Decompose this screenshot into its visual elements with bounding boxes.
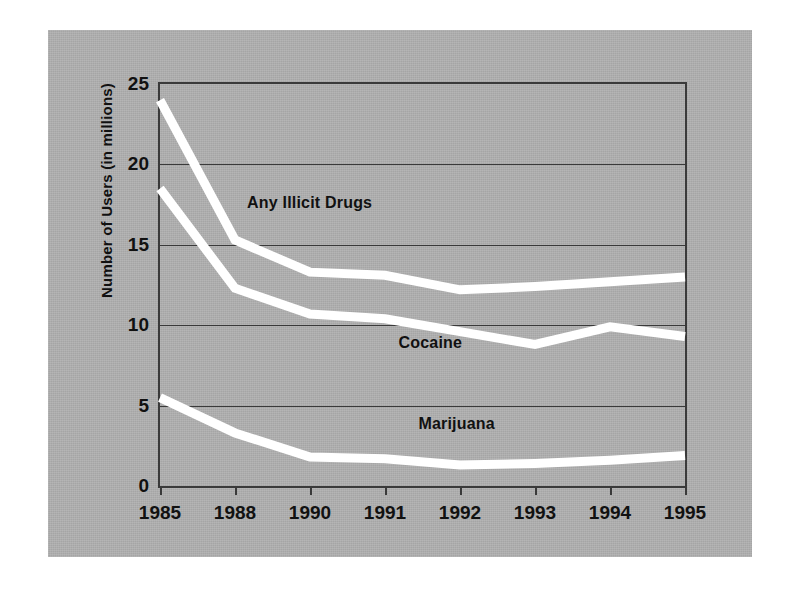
x-tick-1992 — [460, 486, 462, 495]
x-tick-label-1993: 1993 — [514, 502, 556, 524]
chart-panel: Number of Users (in millions) 0510152025… — [48, 30, 752, 557]
x-tick-label-1985: 1985 — [139, 502, 181, 524]
series-label-cocaine: Cocaine — [399, 334, 463, 352]
y-tick-label-15: 15 — [128, 234, 149, 256]
x-tick-1991 — [385, 486, 387, 495]
x-tick-label-1995: 1995 — [664, 502, 706, 524]
x-tick-1990 — [310, 486, 312, 495]
y-axis-title: Number of Users (in millions) — [98, 61, 115, 321]
x-tick-1994 — [610, 486, 612, 495]
x-tick-1995 — [685, 486, 687, 495]
x-tick-label-1988: 1988 — [214, 502, 256, 524]
y-tick-label-25: 25 — [128, 73, 149, 95]
y-tick-label-5: 5 — [138, 395, 149, 417]
x-tick-label-1992: 1992 — [439, 502, 481, 524]
y-tick-label-0: 0 — [138, 475, 149, 497]
series-line-cocaine — [160, 189, 685, 345]
series-label-any-illicit-drugs: Any Illicit Drugs — [247, 194, 372, 212]
x-tick-label-1991: 1991 — [364, 502, 406, 524]
x-tick-label-1994: 1994 — [589, 502, 631, 524]
y-tick-label-20: 20 — [128, 153, 149, 175]
x-tick-1988 — [235, 486, 237, 495]
y-tick-label-10: 10 — [128, 314, 149, 336]
x-tick-label-1990: 1990 — [289, 502, 331, 524]
x-tick-1993 — [535, 486, 537, 495]
series-line-any-illicit-drugs — [160, 100, 685, 290]
plot-area: 0510152025 19851988199019911992199319941… — [158, 82, 687, 488]
series-label-marijuana: Marijuana — [418, 415, 495, 433]
x-tick-1985 — [160, 486, 162, 495]
